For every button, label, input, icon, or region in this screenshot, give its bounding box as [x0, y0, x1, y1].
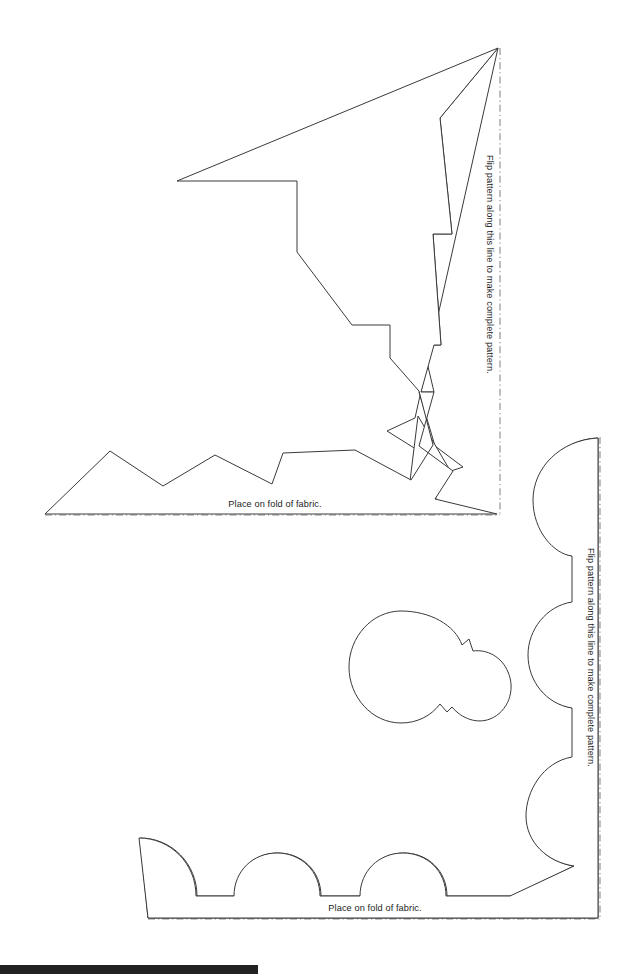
fold-label-bottom-scallop: Place on fold of fabric. — [328, 903, 421, 913]
scanner-edge-bar — [0, 965, 258, 974]
fold-label-right-zigzag: Flip pattern along this line to make com… — [485, 155, 495, 374]
zigzag-body-true — [45, 48, 498, 514]
fold-label-bottom-zigzag: Place on fold of fabric. — [228, 499, 321, 509]
pattern-sheet-page: Place on fold of fabric. Flip pattern al… — [0, 0, 640, 974]
scallop-inner-band — [349, 611, 511, 723]
pattern-sheet-canvas: Place on fold of fabric. Flip pattern al… — [0, 0, 640, 974]
zigzag-pattern-group — [45, 48, 500, 515]
fold-label-right-scallop: Flip pattern along this line to make com… — [586, 548, 596, 767]
